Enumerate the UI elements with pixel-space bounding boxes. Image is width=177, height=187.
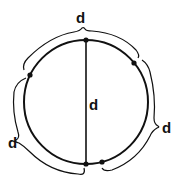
point-right bbox=[131, 60, 136, 65]
point-bottom bbox=[83, 161, 88, 166]
diagram-svg: d d d d bbox=[0, 0, 177, 187]
label-diameter: d bbox=[89, 96, 98, 113]
point-bottom-right bbox=[99, 159, 104, 164]
label-arc-top: d bbox=[76, 9, 85, 26]
label-arc-right: d bbox=[162, 119, 171, 136]
circle-diagram: d d d d bbox=[0, 0, 177, 187]
point-top bbox=[83, 37, 88, 42]
point-left bbox=[27, 72, 32, 77]
label-arc-left: d bbox=[8, 134, 17, 151]
brace-top bbox=[24, 28, 139, 70]
brace-right bbox=[102, 60, 159, 171]
